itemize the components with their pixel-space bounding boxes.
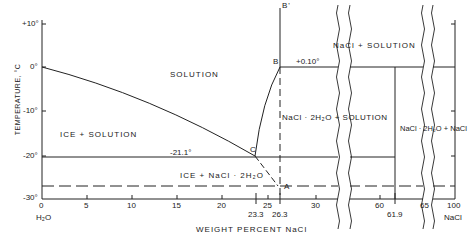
x-tick-100: 100 [447, 201, 460, 210]
x-tick-65: 65 [420, 201, 429, 210]
x-tick-26-3: 26.3 [272, 210, 288, 219]
x-tick-25: 25 [263, 201, 272, 210]
y-tick-p10: +10° [22, 19, 39, 28]
y-tick-0: 0° [30, 62, 38, 71]
x-end-label-nacl: NaCl [444, 213, 462, 222]
region-dihydrate-nacl: NaCl · 2H₂O + NaCl [400, 124, 467, 133]
y-tick-m20: -20° [23, 151, 38, 160]
x-tick-15: 15 [172, 201, 181, 210]
temp-annotation-211: -21.1° [170, 148, 191, 157]
x-tick-10: 10 [127, 201, 136, 210]
y-tick-m30: -30° [23, 193, 38, 202]
ice-liquidus-curve [42, 67, 255, 156]
point-a-label: A [284, 182, 290, 191]
x-tick-30: 30 [311, 201, 320, 210]
point-bprime-label: B' [282, 1, 291, 10]
region-ice-dihydrate: ICE + NaCl · 2H₂O [180, 171, 264, 180]
x-end-label-h2o: H₂O [36, 213, 51, 222]
x-tick-23-3: 23.3 [248, 210, 264, 219]
region-dihydrate-solution: NaCl · 2H₂O + SOLUTION [282, 113, 387, 122]
point-c-label: C [250, 145, 257, 154]
x-tick-60: 60 [375, 201, 384, 210]
y-tick-m10: -10° [23, 106, 38, 115]
x-tick-5: 5 [84, 201, 88, 210]
phase-diagram-plot [0, 0, 469, 240]
y-axis-label: TEMPERATURE, °C [14, 55, 21, 145]
point-b-label: B [273, 57, 279, 66]
region-solution: SOLUTION [170, 70, 219, 79]
x-axis-label: WEIGHT PERCENT NaCl [196, 225, 307, 234]
temp-annotation-010: +0.10° [296, 57, 319, 66]
x-tick-20: 20 [217, 201, 226, 210]
x-tick-61-9: 61.9 [387, 210, 403, 219]
x-tick-0: 0 [39, 201, 43, 210]
region-ice-solution: ICE + SOLUTION [60, 130, 137, 139]
region-nacl-solution: NaCl + SOLUTION [333, 41, 416, 50]
dihydrate-liquidus-curve [255, 67, 280, 156]
